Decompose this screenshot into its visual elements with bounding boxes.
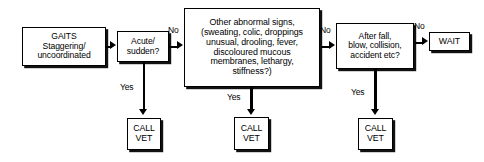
arrowhead-acute-to-other <box>177 41 183 49</box>
arrowhead-other-to-call-vet-2 <box>247 109 255 115</box>
connector-after-fall-to-call-vet-3 <box>374 69 376 111</box>
node-wait-label: WAIT <box>438 37 461 47</box>
node-acute-sudden: Acute/ sudden? <box>117 31 169 62</box>
connector-acute-to-call-vet-1 <box>143 62 145 110</box>
edge-label-yes-after-fall: Yes <box>351 87 364 97</box>
node-wait: WAIT <box>429 32 470 51</box>
edge-label-no-acute: No <box>168 25 178 35</box>
node-call-vet-3: CALL VET <box>358 118 393 150</box>
node-call-vet-1: CALL VET <box>127 118 161 150</box>
arrowhead-after-fall-to-wait <box>422 37 428 45</box>
node-call-vet-3-label: CALL VET <box>364 124 388 144</box>
node-after-fall: After fall, blow, collision, accident et… <box>336 23 414 69</box>
arrowhead-gaits-to-acute <box>110 41 116 49</box>
node-acute-sudden-label: Acute/ sudden? <box>126 37 160 56</box>
flowchart-canvas: GAITS Staggering/ uncoordinated Acute/ s… <box>0 0 484 162</box>
connector-other-to-call-vet-2 <box>250 87 252 111</box>
edge-label-yes-other: Yes <box>227 92 240 102</box>
node-other-abnormal-signs: Other abnormal signs, (sweating, colic, … <box>184 8 320 87</box>
node-after-fall-label: After fall, blow, collision, accident et… <box>347 32 402 61</box>
node-gaits: GAITS Staggering/ uncoordinated <box>22 27 106 66</box>
arrowhead-other-to-after-fall <box>329 41 335 49</box>
node-other-abnormal-signs-label: Other abnormal signs, (sweating, colic, … <box>200 18 304 78</box>
arrowhead-after-fall-to-call-vet-3 <box>371 109 379 115</box>
edge-label-no-other: No <box>320 25 330 35</box>
node-call-vet-1-label: CALL VET <box>132 124 156 144</box>
edge-label-yes-acute: Yes <box>120 82 133 92</box>
arrowhead-acute-to-call-vet-1 <box>139 109 147 115</box>
node-call-vet-2: CALL VET <box>234 117 269 150</box>
node-call-vet-2-label: CALL VET <box>240 124 264 144</box>
edge-label-no-after-fall: No <box>414 21 424 31</box>
node-gaits-label: GAITS Staggering/ uncoordinated <box>36 32 91 61</box>
